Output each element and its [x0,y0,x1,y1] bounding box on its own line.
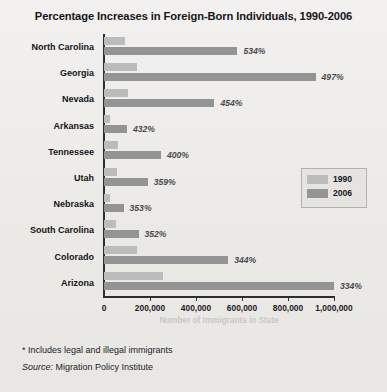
bar-value-label: 353% [130,203,152,213]
category-label: Nebraska [0,191,99,217]
bar-2006 [104,282,334,290]
footnote: * Includes legal and illegal immigrants [22,345,173,355]
bar-value-label: 400% [167,150,189,160]
source-label: Source: [22,362,53,372]
legend-label-2006: 2006 [333,188,352,198]
chart-card: Percentage Increases in Foreign-Born Ind… [0,0,387,392]
bar-1990 [104,141,118,149]
bar-1990 [104,89,128,97]
x-tick-label: 400,000 [181,303,211,313]
bar-2006 [104,204,124,212]
bar-row: Utah359% [104,165,334,191]
x-axis-line [103,296,334,298]
bar-1990 [104,37,125,45]
bar-1990 [104,220,116,228]
bar-1990 [104,115,110,123]
bar-2006 [104,256,228,264]
bar-row: Arizona334% [104,270,334,296]
bar-row: Tennessee400% [104,139,334,165]
bar-value-label: 334% [340,281,362,291]
category-label: North Carolina [0,34,99,60]
bar-2006 [104,125,127,133]
bar-2006 [104,99,214,107]
x-tick-label: 1,000,000 [315,303,352,313]
bar-value-label: 352% [145,229,167,239]
bar-2006 [104,73,316,81]
legend-swatch-1990 [307,175,328,184]
x-tick-label: 800,000 [273,303,303,313]
bar-row: Nebraska353% [104,191,334,217]
category-label: South Carolina [0,217,99,243]
plot-area: North Carolina534%Georgia497%Nevada454%A… [104,34,334,296]
category-label: Utah [0,165,99,191]
legend-item-1990: 1990 [307,174,362,184]
bar-row: Arkansas432% [104,113,334,139]
category-label: Tennessee [0,139,99,165]
category-label: Arkansas [0,113,99,139]
bar-1990 [104,272,163,280]
bar-1990 [104,168,117,176]
bar-row: North Carolina534% [104,34,334,60]
chart-title: Percentage Increases in Foreign-Born Ind… [0,10,387,22]
source-value: Migration Policy Institute [53,362,153,372]
bar-value-label: 359% [154,177,176,187]
x-tick-label: 600,000 [227,303,257,313]
x-tick-label: 200,000 [135,303,165,313]
x-axis-title: Number of Immigrants in State [104,316,334,325]
x-tick [196,296,197,301]
category-label: Nevada [0,86,99,112]
bar-value-label: 432% [133,124,155,134]
category-label: Georgia [0,60,99,86]
bar-2006 [104,151,161,159]
bar-2006 [104,47,237,55]
bar-row: South Carolina352% [104,217,334,243]
bar-value-label: 497% [322,72,344,82]
x-tick [288,296,289,301]
bar-value-label: 454% [220,98,242,108]
legend-label-1990: 1990 [333,174,352,184]
bar-value-label: 344% [234,255,256,265]
bar-2006 [104,178,148,186]
bar-1990 [104,194,110,202]
category-label: Colorado [0,244,99,270]
x-tick [150,296,151,301]
legend-swatch-2006 [307,189,328,198]
bar-row: Nevada454% [104,86,334,112]
x-tick [334,296,335,301]
bar-row: Colorado344% [104,244,334,270]
bar-1990 [104,246,137,254]
bar-value-label: 534% [243,46,265,56]
legend-item-2006: 2006 [307,188,362,198]
bar-1990 [104,63,137,71]
x-tick-label: 0 [102,303,107,313]
bar-row: Georgia497% [104,60,334,86]
source-note: Source: Migration Policy Institute [22,362,153,372]
bar-2006 [104,230,139,238]
category-label: Arizona [0,270,99,296]
legend: 1990 2006 [301,168,367,208]
x-tick [242,296,243,301]
